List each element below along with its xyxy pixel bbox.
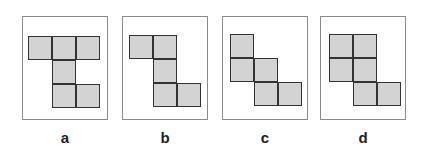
grid-square xyxy=(153,35,177,59)
grid-square xyxy=(52,36,76,60)
grid-square xyxy=(28,36,52,60)
grid-square xyxy=(329,58,353,82)
panel-label-d: d xyxy=(343,129,383,146)
panel-label-b: b xyxy=(145,129,185,146)
grid-square xyxy=(76,36,100,60)
grid-square xyxy=(254,58,278,82)
grid-square xyxy=(254,82,278,106)
panel-d xyxy=(320,16,406,120)
grid-square xyxy=(230,58,254,82)
grid-square xyxy=(52,84,76,108)
grid-square xyxy=(353,58,377,82)
grid-square xyxy=(353,82,377,106)
grid-square xyxy=(377,82,401,106)
grid-square xyxy=(278,82,302,106)
panel-label-a: a xyxy=(45,129,85,146)
grid-square xyxy=(230,34,254,58)
panel-a xyxy=(22,16,108,120)
grid-square xyxy=(153,83,177,107)
grid-square xyxy=(329,34,353,58)
panel-label-c: c xyxy=(245,129,285,146)
grid-square xyxy=(177,83,201,107)
panel-c xyxy=(222,16,308,120)
grid-square xyxy=(353,34,377,58)
grid-square xyxy=(52,60,76,84)
grid-square xyxy=(129,35,153,59)
grid-square xyxy=(153,59,177,83)
grid-square xyxy=(76,84,100,108)
panel-b xyxy=(122,16,208,120)
